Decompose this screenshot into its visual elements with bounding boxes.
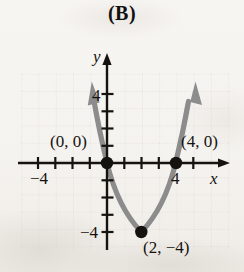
point-marker-vertex — [135, 226, 147, 238]
x-tick-label-4: 4 — [171, 169, 180, 188]
x-axis-label: x — [209, 169, 218, 188]
point-marker-root4 — [170, 157, 182, 169]
figure-panel: (B) — [0, 0, 244, 272]
y-axis-arrowhead — [102, 53, 111, 65]
point-label-origin: (0, 0) — [50, 132, 87, 151]
y-tick-label-4: 4 — [92, 86, 101, 105]
y-tick-label-neg4: −4 — [80, 223, 99, 242]
x-tick-label-neg4: −4 — [30, 169, 49, 188]
point-label-vertex: (2, −4) — [143, 238, 189, 257]
y-axis-label: y — [91, 47, 101, 66]
point-marker-origin — [101, 157, 113, 169]
point-label-root4: (4, 0) — [181, 132, 218, 151]
parabola-graph: −4 4 4 −4 x y (0, 0) (4, 0) (2, −4) — [0, 0, 244, 272]
